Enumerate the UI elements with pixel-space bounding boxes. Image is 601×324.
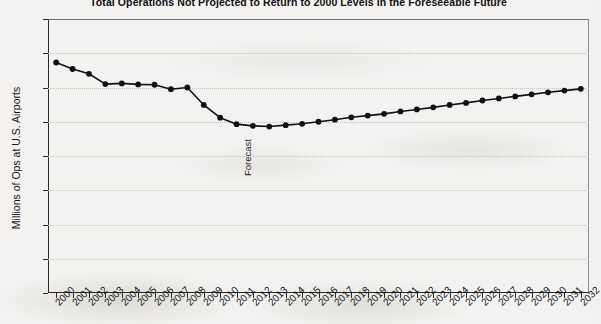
data-point	[201, 102, 207, 108]
data-point	[430, 104, 436, 110]
data-point	[266, 124, 272, 130]
y-tick-mark	[43, 293, 48, 294]
data-point	[168, 86, 174, 92]
data-point	[414, 107, 420, 113]
data-point	[283, 122, 289, 128]
data-point	[562, 88, 568, 94]
data-point	[217, 115, 223, 121]
series-line	[56, 63, 581, 127]
data-point	[398, 109, 404, 115]
series-markers	[53, 60, 583, 130]
data-point	[447, 102, 453, 108]
data-point	[512, 94, 518, 100]
y-axis-label: Millions of Ops at U.S. Airports	[10, 58, 22, 258]
data-point	[496, 96, 502, 102]
data-point	[184, 85, 190, 91]
chart-title: Total Operations Not Projected to Return…	[0, 0, 597, 8]
data-point	[250, 123, 256, 129]
data-point	[234, 121, 240, 127]
data-point	[381, 111, 387, 117]
data-point	[135, 82, 141, 88]
data-point	[348, 114, 354, 120]
data-point	[102, 81, 108, 87]
data-point	[578, 86, 584, 92]
data-point	[152, 82, 158, 88]
data-point	[463, 100, 469, 106]
data-point	[332, 117, 338, 123]
data-point	[480, 98, 486, 104]
data-series	[48, 19, 589, 293]
data-point	[365, 113, 371, 119]
forecast-annotation: Forecast	[242, 139, 253, 176]
data-point	[299, 121, 305, 127]
data-point	[119, 80, 125, 86]
plot-area: 01020304050607080 2000200120022003200420…	[48, 19, 589, 293]
data-point	[53, 60, 59, 66]
data-point	[86, 71, 92, 77]
data-point	[70, 66, 76, 72]
data-point	[316, 119, 322, 125]
data-point	[529, 91, 535, 97]
data-point	[545, 89, 551, 95]
